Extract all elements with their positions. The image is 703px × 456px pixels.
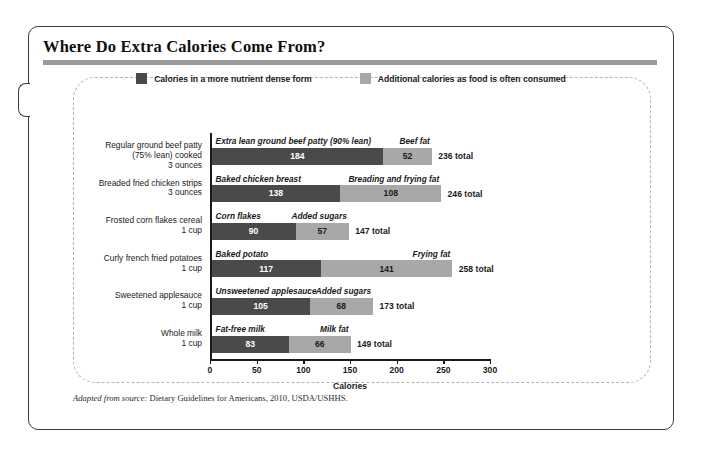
bar-segment: Corn flakes90 <box>212 223 296 240</box>
bar-segment: Unsweetened applesauce105 <box>212 298 310 315</box>
x-axis-tick <box>443 359 444 364</box>
bar-segment-value: 105 <box>253 302 267 311</box>
category-label: Breaded fried chicken strips3 ounces <box>99 179 202 199</box>
bar-row: Sweetened applesauce1 cupUnsweetened app… <box>210 283 490 321</box>
bar-segment-value: 90 <box>249 227 259 236</box>
x-axis-tick-label: 150 <box>343 365 357 375</box>
bar-segment-value: 83 <box>246 340 256 349</box>
page-title: Where Do Extra Calories Come From? <box>43 37 326 57</box>
bar-segment-value: 52 <box>403 152 413 161</box>
bar-segment-name: Added sugars <box>316 286 371 296</box>
category-label-line: 1 cup <box>161 339 202 349</box>
bar-segment-value: 57 <box>317 227 327 236</box>
legend-swatch-icon <box>136 73 147 84</box>
figure-frame: Where Do Extra Calories Come From? Calor… <box>28 26 674 430</box>
x-axis-label: Calories <box>210 381 490 391</box>
legend-item: Additional calories as food is often con… <box>360 73 566 84</box>
source-note: Adapted from source: Dietary Guidelines … <box>73 393 348 403</box>
x-axis-tick <box>350 359 351 364</box>
bar-segment: Added sugars68 <box>310 298 373 315</box>
bar-segment-name: Frying fat <box>413 249 451 259</box>
bar-segment: Frying fat141 <box>321 260 453 277</box>
chart-plot-area: Regular ground beef patty(75% lean) cook… <box>210 133 490 359</box>
bar-segment-value: 66 <box>315 340 325 349</box>
row-total-label: 236 total <box>438 151 473 161</box>
bar-segment: Breading and frying fat108 <box>340 185 441 202</box>
bar-segment-name: Baked potato <box>216 249 269 259</box>
x-axis-tick-label: 0 <box>208 365 213 375</box>
stacked-bar: Unsweetened applesauce105Added sugars68 <box>212 298 373 315</box>
row-total-label: 147 total <box>355 226 390 236</box>
stacked-bar: Extra lean ground beef patty (90% lean)1… <box>212 148 432 165</box>
category-label-line: 1 cup <box>104 264 202 274</box>
bar-segment: Baked potato117 <box>212 260 321 277</box>
row-total-label: 258 total <box>459 264 494 274</box>
bar-segment-value: 117 <box>259 265 273 274</box>
x-axis-tick-label: 200 <box>389 365 403 375</box>
bar-segment: Extra lean ground beef patty (90% lean)1… <box>212 148 384 165</box>
category-label-line: 3 ounces <box>105 161 202 171</box>
bar-row: Curly french fried potatoes1 cupBaked po… <box>210 246 490 284</box>
bar-segment-name: Milk fat <box>320 324 349 334</box>
stacked-bar: Baked potato117Frying fat141 <box>212 260 453 277</box>
x-axis-tick-label: 50 <box>252 365 262 375</box>
row-total-label: 173 total <box>379 301 414 311</box>
legend-item: Calories in a more nutrient dense form <box>136 73 312 84</box>
bar-row: Frosted corn flakes cereal1 cupCorn flak… <box>210 208 490 246</box>
bar-segment-name: Fat-free milk <box>216 324 265 334</box>
frame-notch-decoration <box>18 83 30 117</box>
bar-segment-name: Unsweetened applesauce <box>216 286 317 296</box>
legend-swatch-icon <box>360 73 371 84</box>
row-total-label: 246 total <box>448 189 483 199</box>
bar-segment: Milk fat66 <box>289 336 351 353</box>
bar-segment: Fat-free milk83 <box>212 336 289 353</box>
bar-segment-value: 108 <box>384 189 398 198</box>
category-label: Curly french fried potatoes1 cup <box>104 254 202 274</box>
category-label-line: 1 cup <box>115 301 202 311</box>
x-axis-tick <box>490 359 491 364</box>
category-label-line: 3 ounces <box>99 188 202 198</box>
x-axis-tick <box>210 359 211 364</box>
bar-segment-value: 184 <box>290 152 304 161</box>
category-label-line: 1 cup <box>106 226 202 236</box>
bar-segment-name: Breading and frying fat <box>348 174 439 184</box>
source-note-lead: Adapted from source: <box>73 393 147 403</box>
bar-segment-name: Beef fat <box>399 136 429 146</box>
bar-row: Regular ground beef patty(75% lean) cook… <box>210 133 490 171</box>
x-axis-tick-label: 100 <box>296 365 310 375</box>
stacked-bar: Corn flakes90Added sugars57 <box>212 223 349 240</box>
bar-segment-name: Extra lean ground beef patty (90% lean) <box>216 136 371 146</box>
row-total-label: 149 total <box>357 339 392 349</box>
source-note-text: Dietary Guidelines for Americans, 2010, … <box>147 393 347 403</box>
stacked-bar: Fat-free milk83Milk fat66 <box>212 336 351 353</box>
bar-segment-value: 138 <box>269 189 283 198</box>
legend-item-label: Calories in a more nutrient dense form <box>154 74 312 84</box>
x-axis-tick-label: 250 <box>436 365 450 375</box>
category-label: Sweetened applesauce1 cup <box>115 291 202 311</box>
x-axis-tick <box>397 359 398 364</box>
bar-row: Whole milk1 cupFat-free milk83Milk fat66… <box>210 321 490 359</box>
category-label: Regular ground beef patty(75% lean) cook… <box>105 141 202 170</box>
legend-item-label: Additional calories as food is often con… <box>378 74 566 84</box>
bar-segment-value: 68 <box>337 302 347 311</box>
bar-segment-name: Added sugars <box>291 211 346 221</box>
bar-row: Breaded fried chicken strips3 ouncesBake… <box>210 171 490 209</box>
x-axis-tick <box>257 359 258 364</box>
x-axis-tick <box>303 359 304 364</box>
chart-legend: Calories in a more nutrient dense formAd… <box>29 73 673 84</box>
bar-segment: Beef fat52 <box>383 148 432 165</box>
stacked-bar: Baked chicken breast138Breading and fryi… <box>212 185 442 202</box>
x-axis-tick-label: 300 <box>483 365 497 375</box>
category-label: Frosted corn flakes cereal1 cup <box>106 216 202 236</box>
bar-segment: Added sugars57 <box>296 223 349 240</box>
bar-segment-name: Corn flakes <box>216 211 261 221</box>
bar-segment-name: Baked chicken breast <box>216 174 301 184</box>
bar-segment-value: 141 <box>379 265 393 274</box>
title-underline-rule <box>43 60 657 65</box>
bar-segment: Baked chicken breast138 <box>212 185 341 202</box>
category-label: Whole milk1 cup <box>161 329 202 349</box>
